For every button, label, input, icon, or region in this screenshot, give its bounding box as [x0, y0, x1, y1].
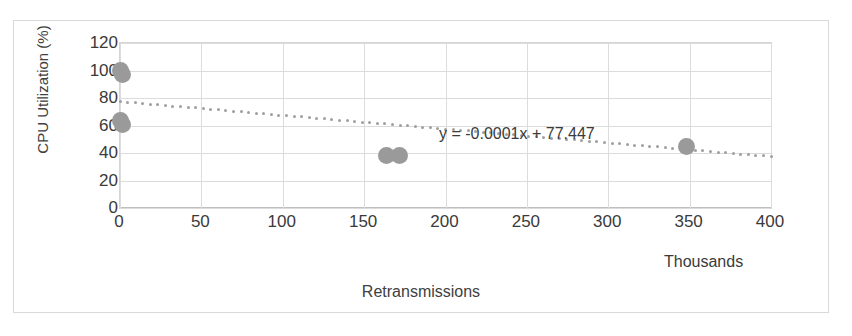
data-point-marker	[114, 116, 131, 133]
trendline-dot	[361, 121, 364, 124]
y-axis-tick-label: 40	[74, 144, 118, 161]
trendline-dot	[330, 118, 333, 121]
x-axis-tick-labels: 050100150200250300350400	[119, 213, 772, 239]
gridline-vertical	[690, 43, 691, 208]
data-point-marker	[391, 147, 408, 164]
trendline-dot	[209, 108, 212, 111]
trendline-dot	[671, 147, 674, 150]
trendline-dot	[338, 119, 341, 122]
trendline-dot	[648, 145, 651, 148]
gridline-horizontal	[120, 208, 771, 209]
trendline-dot	[770, 155, 773, 158]
trendline-dot	[202, 107, 205, 110]
gridline-vertical	[283, 43, 284, 208]
trendline-dot	[429, 126, 432, 129]
y-axis-tick-label: 80	[74, 89, 118, 106]
trendline-dot	[739, 153, 742, 156]
trendline-dot	[134, 101, 137, 104]
trendline-dot	[240, 110, 243, 113]
trendline-dot	[149, 103, 152, 106]
trendline-dot	[717, 151, 720, 154]
trendline-dot	[421, 126, 424, 129]
trendline-dot	[262, 112, 265, 115]
trendline-dot	[368, 121, 371, 124]
trendline-dot	[164, 104, 167, 107]
trendline-dot	[618, 142, 621, 145]
gridline-vertical	[608, 43, 609, 208]
x-axis-title: Retransmissions	[14, 283, 828, 301]
trendline-dot	[217, 108, 220, 111]
trendline-dot	[300, 115, 303, 118]
trendline-dot	[255, 112, 258, 115]
trendline-dot	[179, 105, 182, 108]
x-axis-tick-label: 50	[191, 213, 210, 230]
trendline-dot	[126, 101, 129, 104]
trendline-dot	[285, 114, 288, 117]
x-axis-tick-label: 0	[114, 213, 123, 230]
trendline-dot	[754, 154, 757, 157]
gridline-vertical	[201, 43, 202, 208]
trendline-dot	[656, 145, 659, 148]
trendline-equation-label: y = -0.0001x + 77.447	[439, 125, 595, 143]
trendline-dot	[141, 102, 144, 105]
data-point-marker	[114, 66, 131, 83]
trendline-dot	[353, 120, 356, 123]
x-axis-tick-label: 200	[430, 213, 458, 230]
x-axis-tick-label: 300	[593, 213, 621, 230]
trendline-dot	[376, 122, 379, 125]
y-axis-title: CPU Utilization (%)	[34, 0, 51, 180]
trendline-dot	[156, 103, 159, 106]
trendline-dot	[595, 140, 598, 143]
y-axis-tick-labels: 020406080100120	[70, 21, 118, 314]
trendline-dot	[119, 100, 122, 103]
trendline-dot	[603, 141, 606, 144]
trendline-dot	[171, 105, 174, 108]
trendline-dot	[633, 144, 636, 147]
trendline-dot	[232, 110, 235, 113]
trendline-dot	[414, 125, 417, 128]
trendline-dot	[224, 109, 227, 112]
trendline-dot	[277, 114, 280, 117]
chart-frame: CPU Utilization (%) 020406080100120 0501…	[13, 20, 829, 313]
trendline-dot	[641, 144, 644, 147]
trendline-dot	[747, 153, 750, 156]
trendline-dot	[626, 143, 629, 146]
trendline-dot	[701, 149, 704, 152]
x-axis-tick-label: 250	[512, 213, 540, 230]
trendline-dot	[406, 124, 409, 127]
x-axis-tick-label: 100	[268, 213, 296, 230]
y-axis-tick-label: 120	[74, 34, 118, 51]
trendline-dot	[611, 142, 614, 145]
trendline-dot	[187, 106, 190, 109]
trendline-dot	[664, 146, 667, 149]
trendline-dot	[709, 150, 712, 153]
trendline-dot	[270, 113, 273, 116]
trendline-dot	[323, 117, 326, 120]
x-axis-tick-label: 400	[756, 213, 784, 230]
trendline-dot	[308, 116, 311, 119]
trendline-dot	[293, 115, 296, 118]
x-axis-tick-label: 150	[349, 213, 377, 230]
gridline-vertical	[771, 43, 772, 208]
x-axis-tick-label: 350	[674, 213, 702, 230]
data-point-marker	[678, 138, 695, 155]
trendline-dot	[762, 154, 765, 157]
trendline-dot	[247, 111, 250, 114]
trendline-dot	[346, 119, 349, 122]
gridline-vertical	[364, 43, 365, 208]
trendline-dot	[315, 117, 318, 120]
x-axis-units-label: Thousands	[664, 253, 743, 271]
trendline-dot	[194, 106, 197, 109]
trendline-dot	[732, 152, 735, 155]
y-axis-tick-label: 0	[74, 199, 118, 216]
trendline-dot	[399, 124, 402, 127]
y-axis-tick-label: 20	[74, 171, 118, 188]
